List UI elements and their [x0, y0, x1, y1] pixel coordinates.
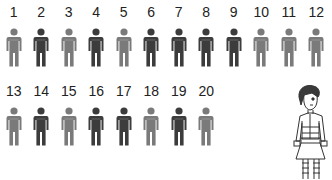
- figure-number: 17: [116, 83, 132, 101]
- figure-number: 11: [281, 4, 296, 22]
- figure-19: 19: [165, 83, 193, 151]
- person-icon: [171, 28, 187, 72]
- figure-number: 20: [198, 83, 214, 101]
- figure-11: 11: [275, 4, 303, 72]
- person-icon: [88, 28, 104, 72]
- figure-number: 18: [143, 83, 159, 101]
- figure-7: 7: [165, 4, 193, 72]
- figure-10: 10: [248, 4, 276, 72]
- figure-5: 5: [110, 4, 138, 72]
- figure-17: 17: [110, 83, 138, 151]
- person-icon: [143, 28, 159, 72]
- figure-number: 19: [171, 83, 187, 101]
- person-icon: [281, 28, 297, 72]
- figure-20: 20: [193, 83, 221, 151]
- figure-number: 16: [88, 83, 104, 101]
- person-icon: [143, 107, 159, 151]
- figure-number: 6: [147, 4, 155, 22]
- girl-drawing-icon: [286, 83, 330, 180]
- figure-number: 3: [65, 4, 73, 22]
- person-icon: [253, 28, 269, 72]
- figure-18: 18: [138, 83, 166, 151]
- figure-number: 1: [10, 4, 18, 22]
- figure-number: 7: [175, 4, 183, 22]
- figure-14: 14: [28, 83, 56, 151]
- figure-4: 4: [83, 4, 111, 72]
- figure-number: 12: [308, 4, 324, 22]
- figure-16: 16: [83, 83, 111, 151]
- figure-9: 9: [220, 4, 248, 72]
- person-icon: [308, 28, 324, 72]
- figure-1: 1: [0, 4, 28, 72]
- figure-number: 4: [92, 4, 100, 22]
- person-icon: [198, 28, 214, 72]
- figure-3: 3: [55, 4, 83, 72]
- person-icon: [226, 28, 242, 72]
- person-icon: [61, 107, 77, 151]
- figure-number: 9: [230, 4, 238, 22]
- person-icon: [33, 107, 49, 151]
- person-icon: [6, 28, 22, 72]
- figure-number: 8: [202, 4, 210, 22]
- figure-number: 5: [120, 4, 128, 22]
- figure-number: 14: [33, 83, 49, 101]
- figure-row-2: 1314151617181920: [0, 83, 220, 151]
- figure-number: 15: [61, 83, 77, 101]
- person-icon: [6, 107, 22, 151]
- figure-number: 10: [253, 4, 269, 22]
- person-icon: [33, 28, 49, 72]
- figure-2: 2: [28, 4, 56, 72]
- person-icon: [88, 107, 104, 151]
- person-icon: [198, 107, 214, 151]
- person-icon: [116, 107, 132, 151]
- figure-15: 15: [55, 83, 83, 151]
- figure-number: 2: [37, 4, 45, 22]
- figure-row-1: 123456789101112: [0, 4, 330, 72]
- figure-13: 13: [0, 83, 28, 151]
- figure-6: 6: [138, 4, 166, 72]
- person-icon: [61, 28, 77, 72]
- figure-12: 12: [303, 4, 331, 72]
- figure-8: 8: [193, 4, 221, 72]
- person-icon: [116, 28, 132, 72]
- person-icon: [171, 107, 187, 151]
- figure-number: 13: [6, 83, 22, 101]
